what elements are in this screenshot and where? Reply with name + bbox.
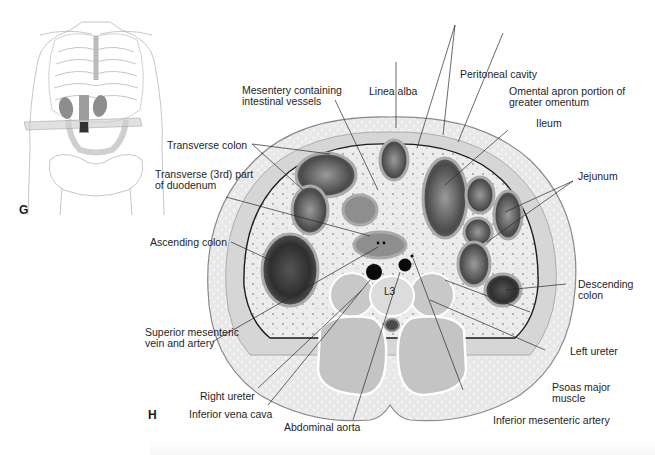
label-omental-apron: Omental apron portion of greater omentum — [509, 86, 625, 108]
label-left-ureter: Left ureter — [570, 346, 618, 357]
label-duodenum: Transverse (3rd) part of duodenum — [155, 169, 253, 191]
label-mesentery: Mesentery containing intestinal vessels — [242, 85, 342, 107]
abdominal-aorta-shape — [399, 259, 412, 272]
label-ivc: Inferior vena cava — [189, 409, 272, 420]
inferior-vena-cava-shape — [366, 264, 382, 280]
panel-letter-g: G — [19, 203, 28, 217]
bottom-edge — [150, 440, 655, 455]
label-linea-alba: Linea alba — [369, 86, 417, 97]
label-descending-colon: Descending colon — [578, 279, 633, 301]
left-kidney-shape — [57, 96, 75, 120]
label-peritoneal-cavity: Peritoneal cavity — [460, 69, 537, 80]
label-ascending-colon: Ascending colon — [150, 237, 227, 248]
label-ileum: Ileum — [536, 118, 562, 129]
label-ima: Inferior mesenteric artery — [493, 415, 610, 426]
label-sm-vein-artery: Superior mesenteric vein and artery — [145, 327, 239, 349]
vertebra-label: L3 — [384, 286, 395, 297]
label-right-ureter: Right ureter — [200, 391, 255, 402]
torso-illustration — [28, 22, 164, 215]
left-psoas-shape — [410, 273, 454, 317]
label-psoas: Psoas major muscle — [552, 382, 610, 404]
label-transverse-colon: Transverse colon — [167, 140, 247, 151]
label-jejunum: Jejunum — [578, 171, 618, 182]
label-aorta: Abdominal aorta — [284, 422, 360, 433]
panel-letter-h: H — [148, 408, 157, 422]
spinal-canal — [385, 319, 399, 331]
right-psoas-shape — [330, 273, 374, 317]
